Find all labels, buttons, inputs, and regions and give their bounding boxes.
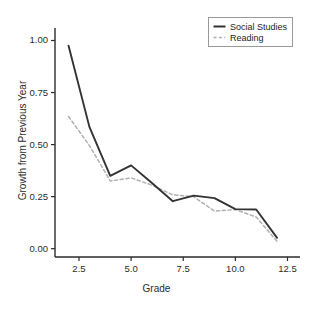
legend-swatch-reading: [213, 33, 226, 42]
x-tick-label: 12.5: [267, 263, 307, 274]
line-series-social-studies: [69, 46, 278, 238]
y-tick-label: 1.00: [3, 34, 48, 45]
legend-swatch-social-studies: [213, 22, 226, 31]
x-tick-label: 2.5: [59, 263, 99, 274]
y-tick-label: 0.00: [3, 243, 48, 254]
x-tick-label: 7.5: [163, 263, 203, 274]
x-axis-title: Grade: [0, 283, 313, 294]
y-axis-title: Growth from Previous Year: [17, 56, 28, 226]
x-tick-label: 10.0: [215, 263, 255, 274]
legend-item-social-studies: Social Studies: [213, 21, 287, 32]
axis-spines: [55, 28, 300, 257]
legend-item-reading: Reading: [213, 32, 287, 43]
chart-figure: 0.000.250.500.751.00 2.55.07.510.012.5 G…: [0, 0, 313, 311]
chart-legend: Social Studies Reading: [208, 17, 293, 47]
x-tick-label: 5.0: [111, 263, 151, 274]
legend-label-reading: Reading: [230, 33, 264, 43]
legend-label-social-studies: Social Studies: [230, 22, 287, 32]
line-series-reading: [69, 116, 278, 241]
